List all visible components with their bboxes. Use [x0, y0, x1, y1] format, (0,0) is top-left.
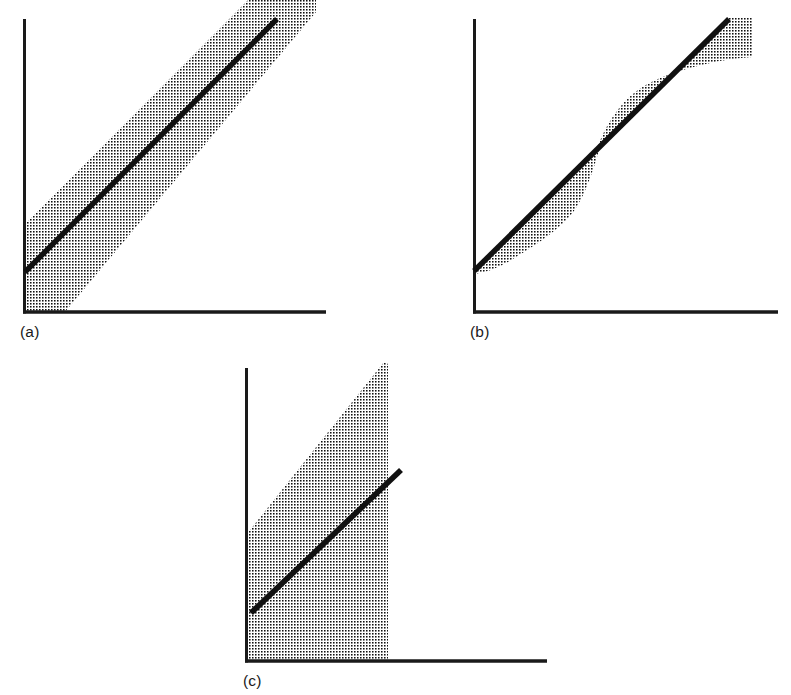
- panel-a-label: (a): [20, 323, 40, 340]
- panel-b-label: (b): [470, 323, 490, 340]
- figure-svg: (a) (b) (c): [0, 0, 791, 695]
- figure-background: [0, 0, 791, 695]
- panel-c-label: (c): [243, 672, 262, 689]
- figure-root: (a) (b) (c): [0, 0, 791, 695]
